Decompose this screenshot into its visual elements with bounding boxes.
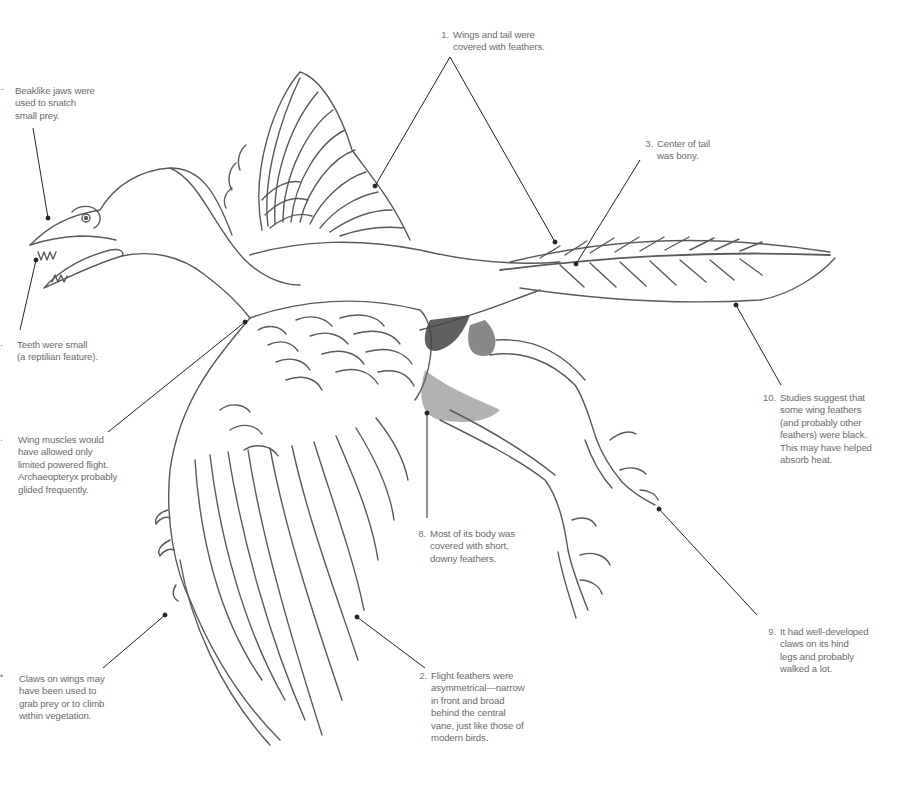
- annotation-1-wings-tail-feathers: 1. Wings and tail were covered with feat…: [453, 29, 545, 54]
- annotation-8-downy-feathers: 8. Most of its body was covered with sho…: [430, 528, 515, 565]
- annotation-3-bony-tail: 3. Center of tail was bony.: [657, 138, 710, 163]
- annotation-2-asymmetrical-flight-feathers: 2. Flight feathers were asymmetrical—nar…: [431, 670, 525, 744]
- annotation-text: Wings and tail were covered with feather…: [453, 29, 545, 54]
- near-wing: [156, 301, 432, 745]
- annotation-text: Teeth were small (a reptilian feature).: [17, 339, 98, 364]
- annotation-text: Wing muscles would have allowed only lim…: [18, 434, 117, 496]
- annotation-text: Most of its body was covered with short,…: [430, 528, 515, 565]
- annotation-10-black-feathers: 10. Studies suggest that some wing feath…: [780, 392, 872, 466]
- cropped-number-fragment: -: [1, 84, 4, 94]
- annotation-text: Center of tail was bony.: [657, 138, 710, 163]
- annotation-text: It had well-developed claws on its hind …: [780, 626, 869, 676]
- cropped-number-fragment: •: [0, 671, 3, 681]
- legs: [440, 340, 658, 618]
- annotation-wing-claws: Claws on wings may have been used to gra…: [19, 673, 105, 723]
- annotation-text: Studies suggest that some wing feathers …: [780, 392, 872, 466]
- annotation-wing-muscles: Wing muscles would have allowed only lim…: [18, 434, 117, 496]
- annotation-number: 2.: [411, 670, 427, 682]
- archaeopteryx-diagram: 1. Wings and tail were covered with feat…: [0, 0, 908, 803]
- annotation-number: 3.: [637, 138, 653, 150]
- annotation-text: Beaklike jaws were used to snatch small …: [15, 85, 95, 122]
- annotation-9-hind-leg-claws: 9. It had well-developed claws on its hi…: [780, 626, 869, 676]
- annotation-text: Flight feathers were asymmetrical—narrow…: [431, 670, 525, 744]
- annotation-number: 8.: [410, 528, 426, 540]
- cropped-number-fragment: ․: [0, 433, 3, 443]
- annotation-beaklike-jaws: Beaklike jaws were used to snatch small …: [15, 85, 95, 122]
- upper-wing: [224, 72, 410, 240]
- annotation-number: 9.: [760, 626, 776, 638]
- annotation-number: 10.: [760, 392, 776, 404]
- annotation-text: Claws on wings may have been used to gra…: [19, 673, 105, 723]
- annotation-small-teeth: Teeth were small (a reptilian feature).: [17, 339, 98, 364]
- annotation-number: 1.: [433, 29, 449, 41]
- cropped-number-fragment: ․: [0, 338, 3, 348]
- body-tail: [250, 237, 835, 330]
